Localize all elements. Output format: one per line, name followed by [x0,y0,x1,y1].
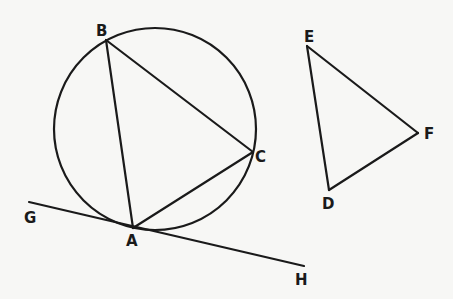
segment-DE [307,46,329,190]
label-E: E [304,28,314,46]
label-H: H [295,271,308,289]
tangent-line-GH [29,202,304,266]
label-A: A [126,232,138,250]
label-G: G [24,209,36,227]
label-C: C [255,148,266,166]
segment-EF [307,46,418,133]
label-F: F [424,125,434,143]
label-D: D [322,195,334,213]
circle [54,28,256,230]
geometry-diagram: B C A G H E F D [0,0,453,299]
segment-BC [106,40,253,152]
label-B: B [96,22,107,40]
segment-AB [106,40,133,228]
segment-FD [329,133,418,190]
